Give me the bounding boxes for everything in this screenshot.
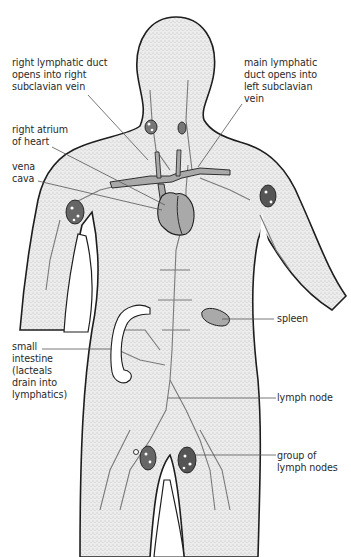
inguinal-nodes-left	[178, 447, 196, 473]
label-right-atrium: right atrium of heart	[12, 124, 68, 148]
neck-node-right	[145, 120, 157, 134]
axillary-nodes-left	[260, 185, 276, 207]
inguinal-nodes-right	[140, 446, 156, 470]
label-lymph-node: lymph node	[277, 392, 333, 404]
label-right-lymphatic-duct: right lymphatic duct opens into right su…	[12, 57, 107, 93]
label-small-intestine: small intestine (lacteals drain into lym…	[12, 341, 67, 401]
label-vena-cava: vena cava	[12, 161, 35, 185]
neck-node-left	[178, 122, 186, 134]
label-main-lymphatic-duct: main lymphatic duct opens into left subc…	[244, 57, 317, 105]
single-lymph-node	[134, 450, 139, 455]
label-group-of-lymph-nodes: group of lymph nodes	[277, 450, 338, 474]
label-spleen: spleen	[277, 313, 308, 325]
